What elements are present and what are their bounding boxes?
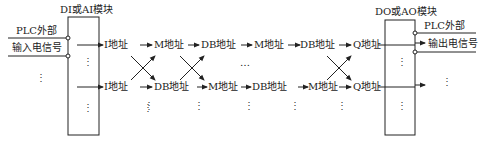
diagram-lines [0,0,483,147]
output-module-dots-upper: ⋮ [397,60,403,64]
middle-ellipsis: … [240,57,250,69]
bottom-q-address: Q地址 [353,81,381,93]
bottom-db-address-1: DB地址 [154,81,189,93]
top-m-address-1: M地址 [154,39,184,51]
output-module-box [385,20,415,135]
input-terminal-top [66,36,70,40]
bottom-m-address-2: M地址 [308,81,338,93]
input-module-title: DI或AI模块 [60,4,113,16]
input-module-box [68,17,99,135]
input-external-label: PLC外部 [16,25,57,37]
top-db-address-2: DB地址 [300,39,335,51]
output-external-dots: ⋮ [442,80,448,84]
output-terminal-bottom [413,50,417,54]
bottom-m-address-1: M地址 [208,81,238,93]
bottom-i-address: I地址 [104,81,128,93]
output-module-title: DO或AO模块 [375,6,437,18]
top-q-address: Q地址 [353,39,381,51]
input-module-dots-upper: ⋮ [83,60,89,64]
input-terminal-bottom [66,54,70,58]
bottom-db-address-2: DB地址 [252,81,287,93]
top-db-address-1: DB地址 [201,39,236,51]
plc-address-flow-diagram: DI或AI模块 DO或AO模块 PLC外部 输入电信号 PLC外部 输出电信号 … [0,0,483,147]
top-m-address-2: M地址 [254,39,284,51]
row-dots-2: ⋮ [144,104,150,108]
row-dots-5: ⋮ [290,104,296,108]
row-dots-3: ⋮ [194,104,200,108]
input-external-dots: ⋮ [36,76,42,80]
input-signal-label: 输入电信号 [12,42,62,54]
top-i-address: I地址 [104,39,128,51]
output-module-dots-lower: ⋮ [397,104,403,108]
row-dots-4: ⋮ [244,104,250,108]
output-terminal-top [413,31,417,35]
row-dots-6: ⋮ [337,104,343,108]
input-module-dots-lower: ⋮ [83,106,89,110]
output-external-label: PLC外部 [424,20,465,32]
output-signal-label: 输出电信号 [428,38,478,50]
